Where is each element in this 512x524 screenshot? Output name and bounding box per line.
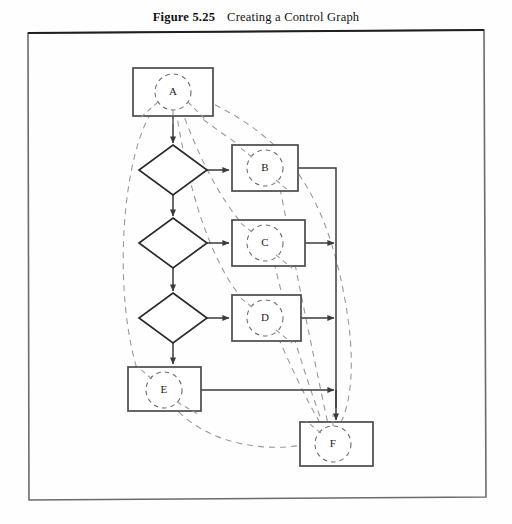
process-node-b: B	[232, 145, 298, 191]
figure-page: Figure 5.25Creating a Control Graph	[0, 0, 512, 524]
decision-nodes	[139, 145, 207, 343]
process-node-d: D	[232, 295, 301, 341]
process-node-f: F	[300, 422, 373, 466]
decision-node-3	[139, 293, 207, 343]
process-node-label-e: E	[160, 383, 167, 395]
process-node-e: E	[128, 367, 201, 411]
control-edge-d-f	[274, 328, 322, 426]
process-node-label-b: B	[261, 161, 269, 173]
process-node-label-d: D	[261, 311, 269, 323]
flow-edge-b-trunk	[298, 168, 336, 408]
process-node-c: C	[232, 220, 305, 266]
control-graph-diagram: A B C D	[0, 0, 512, 524]
process-node-label-a: A	[169, 85, 177, 97]
process-node-label-c: C	[261, 236, 269, 248]
process-node-a: A	[133, 68, 213, 116]
process-node-label-f: F	[330, 437, 336, 449]
decision-node-2	[139, 218, 207, 268]
figure-drawing-area: A B C D	[0, 0, 512, 524]
decision-node-1	[139, 145, 207, 195]
control-edge-a-d	[176, 110, 246, 303]
